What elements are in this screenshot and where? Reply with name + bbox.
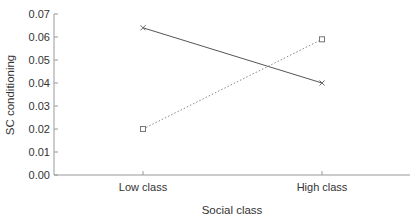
square-marker-icon xyxy=(141,127,146,132)
y-tick-label: 0.04 xyxy=(29,77,50,89)
y-tick-label: 0.07 xyxy=(29,8,50,20)
y-tick-label: 0.06 xyxy=(29,31,50,43)
square-marker-icon xyxy=(320,37,325,42)
cross-marker-icon xyxy=(320,81,325,86)
plot-series xyxy=(141,25,325,131)
y-tick-label: 0.02 xyxy=(29,123,50,135)
y-axis-label: SC conditioning xyxy=(4,55,16,136)
x-axis-label: Social class xyxy=(202,204,263,216)
series-square-dotted-line xyxy=(143,39,322,129)
line-chart: 0.000.010.020.030.040.050.060.07 Low cla… xyxy=(0,0,417,221)
y-tick-label: 0.03 xyxy=(29,100,50,112)
x-axis-ticks: Low classHigh class xyxy=(119,171,348,193)
cross-marker-icon xyxy=(141,25,146,30)
y-tick-label: 0.05 xyxy=(29,54,50,66)
series-cross-solid-line xyxy=(143,28,322,83)
x-tick-label: High class xyxy=(297,181,348,193)
y-tick-label: 0.01 xyxy=(29,146,50,158)
y-tick-label: 0.00 xyxy=(29,169,50,181)
x-tick-label: Low class xyxy=(119,181,168,193)
